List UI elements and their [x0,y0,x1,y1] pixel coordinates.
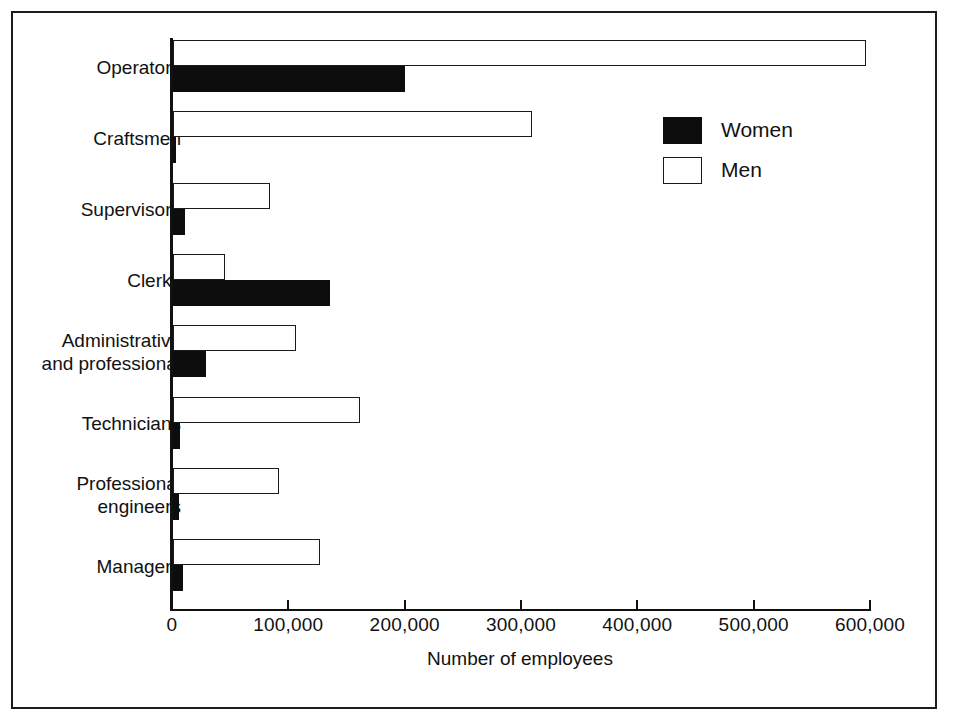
bar-men [173,183,270,209]
bar-group: Professionalengineers [0,468,953,539]
bar-men [173,397,360,423]
category-label: Managers [0,555,181,578]
category-label-line1: Administrative [0,329,181,352]
bar-group: Clerks [0,254,953,325]
chart-figure: 0100,000200,000300,000400,000500,000600,… [0,0,953,726]
bar-women [173,137,176,163]
category-label-line1: Professional [0,472,181,495]
category-label-line1: Craftsmen [0,127,181,150]
category-label-line2: engineers [0,495,181,518]
category-label: Craftsmen [0,127,181,150]
bar-group: Administrativeand professional [0,325,953,396]
bar-men [173,539,320,565]
legend-item-men: Men [663,153,863,187]
category-label-line2: and professional [0,352,181,375]
bar-women [173,66,405,92]
category-label: Administrativeand professional [0,329,181,375]
x-tick-label-6: 600,000 [835,614,905,636]
category-label: Clerks [0,269,181,292]
category-label: Operators [0,56,181,79]
bar-women [173,351,206,377]
bar-women [173,494,179,520]
x-tick-label-0: 0 [167,614,178,636]
category-label-line1: Operators [0,56,181,79]
legend-label-men: Men [721,158,762,182]
x-axis-label: Number of employees [172,648,868,670]
x-tick-label-2: 200,000 [370,614,440,636]
category-label: Technicians [0,412,181,435]
chart-legend: Women Men [663,113,863,193]
category-label-line1: Clerks [0,269,181,292]
category-label-line1: Technicians [0,412,181,435]
bar-group: Managers [0,539,953,610]
legend-swatch-men [663,157,702,184]
legend-swatch-women [663,117,702,144]
bar-group: Technicians [0,397,953,468]
category-label: Professionalengineers [0,472,181,518]
category-label: Supervisors [0,198,181,221]
x-tick-label-5: 500,000 [719,614,789,636]
x-tick-label-3: 300,000 [486,614,556,636]
bar-women [173,423,180,449]
bar-men [173,111,532,137]
bar-group: Operators [0,40,953,111]
bar-men [173,40,866,66]
legend-label-women: Women [721,118,793,142]
bar-women [173,280,330,306]
bar-men [173,325,296,351]
bar-men [173,468,279,494]
legend-item-women: Women [663,113,863,147]
bar-women [173,565,183,591]
category-label-line1: Supervisors [0,198,181,221]
bar-women [173,209,185,235]
bar-men [173,254,225,280]
x-tick-label-1: 100,000 [253,614,323,636]
x-tick-label-4: 400,000 [602,614,672,636]
plot-area: 0100,000200,000300,000400,000500,000600,… [0,0,953,726]
category-label-line1: Managers [0,555,181,578]
bar-group: Supervisors [0,183,953,254]
